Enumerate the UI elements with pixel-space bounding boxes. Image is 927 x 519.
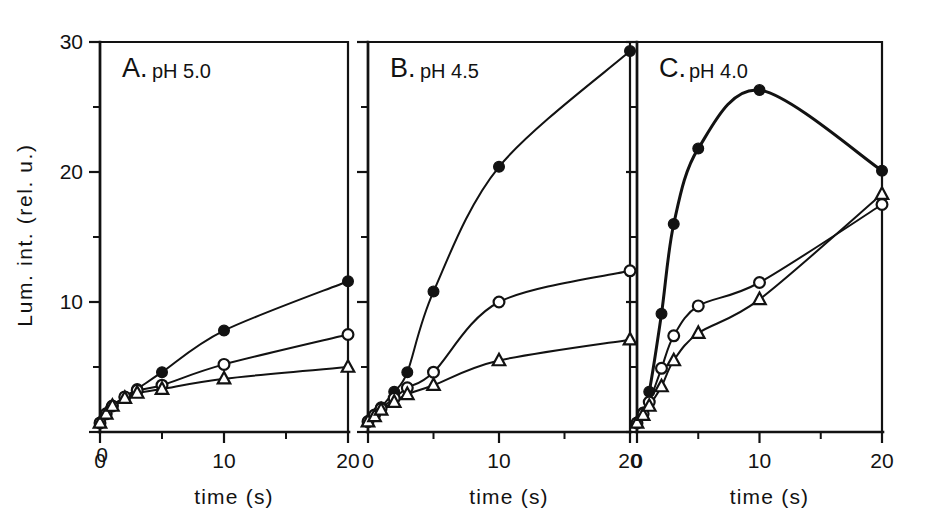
series-markers-open-circle xyxy=(363,265,636,427)
data-point-filled-circle xyxy=(343,276,354,287)
data-point-open-circle xyxy=(877,199,888,210)
data-point-open-circle xyxy=(625,265,636,276)
x-tick-label: 20 xyxy=(336,449,359,472)
data-point-filled-circle xyxy=(428,286,439,297)
panel-b: 01020time (s)B.pH 4.5 xyxy=(357,42,642,508)
x-tick-label: 10 xyxy=(487,449,510,472)
series-markers-filled-circle xyxy=(95,276,354,428)
data-point-filled-circle xyxy=(625,46,636,57)
data-point-filled-circle xyxy=(668,219,679,230)
plot-frame xyxy=(637,42,882,432)
series-line-open-circle xyxy=(637,205,882,423)
x-axis-label-text: time (s) xyxy=(194,485,274,508)
multi-panel-chart: 102030001020time (s)A.pH 5.0 01020time (… xyxy=(0,0,927,519)
panel-a: 102030001020time (s)A.pH 5.0 xyxy=(60,30,360,508)
panel-condition: pH 4.0 xyxy=(689,60,748,82)
x-tick-label: 0 xyxy=(94,449,106,472)
panel-letter: C. xyxy=(659,53,686,83)
panel-condition: pH 5.0 xyxy=(152,60,211,82)
data-point-open-triangle xyxy=(753,293,766,305)
data-point-filled-circle xyxy=(877,165,888,176)
data-point-filled-circle xyxy=(656,308,667,319)
data-point-open-circle xyxy=(428,367,439,378)
data-point-open-triangle xyxy=(624,333,637,345)
data-point-filled-circle xyxy=(157,367,168,378)
data-point-open-circle xyxy=(693,301,704,312)
y-axis-title: Lum. int. (rel. u.) xyxy=(13,143,36,326)
panel-condition: pH 4.5 xyxy=(420,60,479,82)
data-point-open-circle xyxy=(656,363,667,374)
x-tick-label: 0 xyxy=(631,449,643,472)
series-line-filled-circle xyxy=(100,281,348,423)
data-point-filled-circle xyxy=(644,386,655,397)
y-axis-label-text: Lum. int. (rel. u.) xyxy=(13,143,36,326)
y-tick-label: 20 xyxy=(60,160,83,183)
series-markers-open-circle xyxy=(632,199,888,428)
data-point-open-circle xyxy=(668,330,679,341)
y-tick-label: 30 xyxy=(60,30,83,53)
data-point-filled-circle xyxy=(494,161,505,172)
data-point-open-circle xyxy=(494,297,505,308)
series-line-filled-circle xyxy=(637,90,882,423)
data-point-filled-circle xyxy=(219,325,230,336)
data-point-open-circle xyxy=(219,359,230,370)
x-tick-label: 10 xyxy=(748,449,771,472)
x-tick-label: 10 xyxy=(212,449,235,472)
x-axis-label-text: time (s) xyxy=(469,485,549,508)
data-point-open-circle xyxy=(754,277,765,288)
data-point-filled-circle xyxy=(754,85,765,96)
data-point-open-circle xyxy=(343,329,354,340)
panel-c: 01020time (s)C.pH 4.0 xyxy=(626,42,894,508)
x-tick-label: 20 xyxy=(870,449,893,472)
data-point-open-triangle xyxy=(876,187,889,199)
panel-letter: A. xyxy=(122,53,148,83)
x-axis-label-text: time (s) xyxy=(730,485,810,508)
data-point-filled-circle xyxy=(402,367,413,378)
figure-container: 102030001020time (s)A.pH 5.0 01020time (… xyxy=(0,0,927,519)
y-tick-label: 10 xyxy=(60,290,83,313)
panel-letter: B. xyxy=(390,53,416,83)
data-point-open-triangle xyxy=(692,326,705,338)
x-tick-label: 0 xyxy=(362,449,374,472)
data-point-filled-circle xyxy=(693,143,704,154)
series-markers-filled-circle xyxy=(363,46,636,427)
data-point-open-triangle xyxy=(342,360,355,372)
